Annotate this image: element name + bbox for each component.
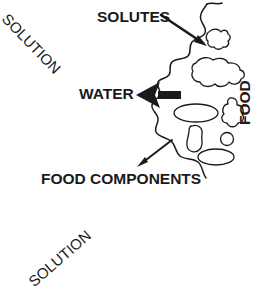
food-particle-bean-blob-lower <box>187 125 202 151</box>
label-solutes: SOLUTES <box>97 8 170 26</box>
osmosis-diagram: SOLUTES WATER FOOD COMPONENTS FOOD SOLUT… <box>0 0 268 289</box>
label-food: FOOD <box>236 80 254 125</box>
food-particle-irregular-blob-upper <box>206 29 230 49</box>
food-particle-ellipse-blob-lower <box>198 149 234 165</box>
food-particle-small-circle-blob <box>221 133 234 146</box>
food-components-arrow <box>137 140 172 167</box>
label-food-components: FOOD COMPONENTS <box>41 170 201 188</box>
food-particle-ellipse-blob-mid <box>174 104 218 122</box>
food-boundary-top-tail <box>207 3 222 4</box>
label-water: WATER <box>79 85 134 103</box>
